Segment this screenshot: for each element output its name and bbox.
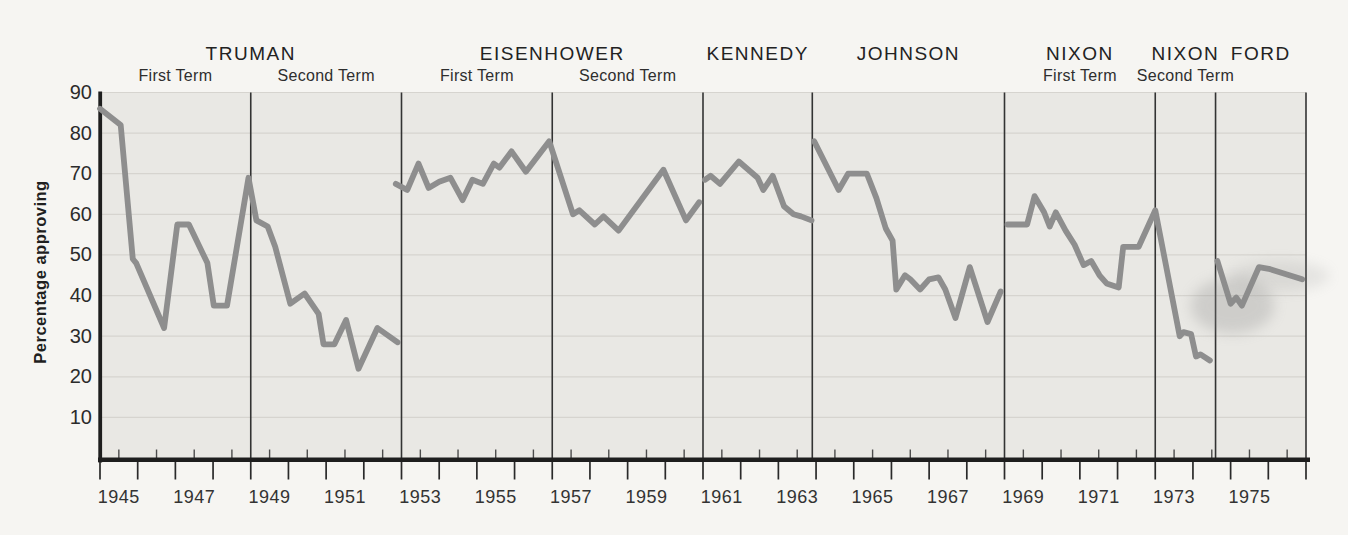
- y-tick-label-70: 70: [70, 162, 92, 184]
- y-tick-label-20: 20: [70, 365, 92, 387]
- y-axis-line: [98, 92, 102, 463]
- president-label-johnson-3: JOHNSON: [857, 43, 960, 64]
- y-axis-title: Percentage approving: [31, 180, 49, 363]
- term-label: Second Term: [579, 67, 676, 84]
- y-tick-label-80: 80: [70, 122, 92, 144]
- x-tick-label-1963: 1963: [776, 487, 818, 507]
- president-label-eisenhower-1: EISENHOWER: [480, 43, 625, 64]
- x-tick-label-1957: 1957: [550, 487, 592, 507]
- y-tick-label-40: 40: [70, 284, 92, 306]
- term-label: Second Term: [1137, 67, 1234, 84]
- x-tick-label-1961: 1961: [701, 487, 743, 507]
- x-axis-line: [98, 458, 1310, 463]
- term-label: Second Term: [277, 67, 374, 84]
- x-tick-label-1971: 1971: [1078, 487, 1120, 507]
- y-tick-label-10: 10: [70, 406, 92, 428]
- y-tick-label-90: 90: [70, 81, 92, 103]
- president-label-ford-6: FORD: [1231, 43, 1291, 64]
- term-label: First Term: [1043, 67, 1117, 84]
- x-tick-label-1967: 1967: [927, 487, 969, 507]
- x-tick-label-1947: 1947: [173, 487, 215, 507]
- president-label-kennedy-2: KENNEDY: [706, 43, 808, 64]
- x-tick-label-1973: 1973: [1153, 487, 1195, 507]
- x-tick-label-1959: 1959: [625, 487, 667, 507]
- print-smudge: [1230, 261, 1330, 291]
- y-tick-label-60: 60: [70, 203, 92, 225]
- chart-built-content: 1945194719491951195319551957195919611963…: [70, 43, 1330, 507]
- term-label: First Term: [440, 67, 514, 84]
- x-tick-label-1945: 1945: [98, 487, 140, 507]
- y-tick-label-50: 50: [70, 243, 92, 265]
- x-tick-label-1965: 1965: [852, 487, 894, 507]
- x-tick-label-1955: 1955: [475, 487, 517, 507]
- president-label-truman-0: TRUMAN: [206, 43, 296, 64]
- president-label-nixon-4: NIXON: [1046, 43, 1114, 64]
- x-tick-label-1953: 1953: [399, 487, 441, 507]
- x-tick-label-1951: 1951: [324, 487, 366, 507]
- presidential-approval-line-chart: 1945194719491951195319551957195919611963…: [0, 0, 1348, 535]
- scanned-chart-page: 1945194719491951195319551957195919611963…: [0, 0, 1348, 535]
- y-tick-label-30: 30: [70, 325, 92, 347]
- x-tick-label-1975: 1975: [1228, 487, 1270, 507]
- president-label-nixon-5: NIXON: [1152, 43, 1220, 64]
- x-tick-label-1969: 1969: [1002, 487, 1044, 507]
- term-label: First Term: [138, 67, 212, 84]
- x-tick-label-1949: 1949: [249, 487, 291, 507]
